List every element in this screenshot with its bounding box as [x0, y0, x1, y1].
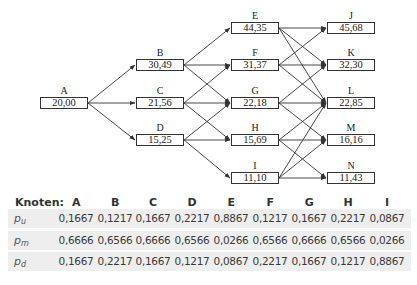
node-box-i: 11,10: [231, 172, 279, 184]
node-label-m: M: [327, 123, 375, 133]
node-label-h: H: [231, 123, 279, 133]
row-label-pm: pm: [14, 231, 29, 253]
row-label-pu: pu: [14, 209, 26, 231]
table-cell: 0,1667: [56, 209, 96, 228]
table-cell: 0,0867: [367, 209, 407, 228]
table-cell: 0,0266: [367, 231, 407, 250]
node-box-j: 45,68: [327, 22, 375, 34]
edge-a-b: [88, 65, 135, 103]
node-label-b: B: [136, 48, 184, 58]
row-label-pd: pd: [14, 252, 26, 274]
table-cell: 0,8867: [211, 209, 251, 228]
node-label-n: N: [327, 161, 375, 171]
table-cell: 0,8867: [367, 252, 407, 271]
table-cell: 0,6666: [133, 231, 173, 250]
table-cell: 0,1217: [328, 252, 368, 271]
node-label-e: E: [231, 11, 279, 21]
node-box-g: 22,18: [231, 97, 279, 109]
node-label-d: D: [136, 123, 184, 133]
table-cell: 0,2217: [172, 209, 212, 228]
table-cell: 0,1667: [289, 209, 329, 228]
table-cell: 0,2217: [250, 252, 290, 271]
edge-b-e: [184, 28, 230, 65]
table-cell: 0,1217: [250, 209, 290, 228]
node-box-m: 16,16: [327, 134, 375, 146]
node-box-n: 11,43: [327, 172, 375, 184]
table-cell: 0,6666: [56, 231, 96, 250]
edge-a-d: [88, 103, 135, 140]
node-label-c: C: [136, 86, 184, 96]
node-label-a: A: [40, 86, 88, 96]
node-label-l: L: [327, 86, 375, 96]
node-box-b: 30,49: [136, 59, 184, 71]
table-cell: 0,1217: [95, 209, 135, 228]
table-cell: 0,6566: [172, 231, 212, 250]
edge-i-l: [279, 103, 326, 178]
table-cell: 0,6666: [289, 231, 329, 250]
table-cell: 0,1667: [133, 209, 173, 228]
table-cell: 0,1667: [289, 252, 329, 271]
table-row-pu: pu 0,16670,12170,16670,22170,88670,12170…: [8, 209, 411, 228]
trinomial-tree: A20,00B30,49C21,56D15,25E44,35F31,37G22,…: [0, 0, 417, 190]
table-row-pm: pm 0,66660,65660,66660,65660,02660,65660…: [8, 231, 411, 250]
table-cell: 0,6566: [328, 231, 368, 250]
table-cell: 0,0266: [211, 231, 251, 250]
edge-d-i: [184, 140, 230, 178]
table-cell: 0,2217: [328, 209, 368, 228]
table-cell: 0,6566: [250, 231, 290, 250]
node-label-k: K: [327, 48, 375, 58]
node-box-d: 15,25: [136, 134, 184, 146]
table-cell: 0,1217: [172, 252, 212, 271]
node-box-c: 21,56: [136, 97, 184, 109]
node-box-k: 32,30: [327, 59, 375, 71]
table-cell: 0,0867: [211, 252, 251, 271]
edge-e-l: [279, 28, 326, 103]
node-label-j: J: [327, 11, 375, 21]
table-cell: 0,1667: [133, 252, 173, 271]
node-box-l: 22,85: [327, 97, 375, 109]
node-label-g: G: [231, 86, 279, 96]
table-cell: 0,1667: [56, 252, 96, 271]
table-cell: 0,6566: [95, 231, 135, 250]
node-box-a: 20,00: [40, 97, 88, 109]
node-label-f: F: [231, 48, 279, 58]
node-label-i: I: [231, 161, 279, 171]
table-row-pd: pd 0,16670,22170,16670,12170,08670,22170…: [8, 252, 411, 271]
node-box-h: 15,69: [231, 134, 279, 146]
node-box-e: 44,35: [231, 22, 279, 34]
node-box-f: 31,37: [231, 59, 279, 71]
table-cell: 0,2217: [95, 252, 135, 271]
